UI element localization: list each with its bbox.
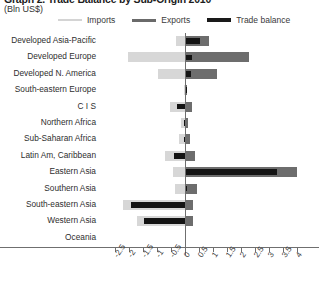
x-tick-label: -2 (126, 248, 137, 259)
zero-axis-line (185, 33, 186, 255)
line-swatch-icon (132, 19, 156, 22)
legend-item-exports: Exports (132, 15, 190, 25)
x-axis-line (0, 247, 319, 248)
row-bars (0, 131, 319, 147)
chart-row: Eastern Asia (0, 164, 319, 180)
row-bars (0, 115, 319, 131)
chart-row: Oceania (0, 230, 319, 246)
row-bars (0, 164, 319, 180)
chart-row: C I S (0, 99, 319, 115)
chart-row: South-eastern Europe (0, 82, 319, 98)
chart-legend: ImportsExportsTrade balance (58, 15, 290, 25)
bar-trade-balance (131, 202, 185, 208)
row-bars (0, 82, 319, 98)
row-bars (0, 49, 319, 65)
line-swatch-icon (58, 19, 82, 21)
x-tick-label: 0 (182, 250, 192, 259)
chart-row: Sub-Saharan Africa (0, 131, 319, 147)
chart-row: Southern Asia (0, 181, 319, 197)
legend-item-imports: Imports (58, 15, 115, 25)
bar-imports (158, 69, 185, 79)
bar-imports (175, 184, 185, 194)
bar-exports (185, 151, 195, 161)
chart-row: Developed Europe (0, 49, 319, 65)
bar-imports (128, 52, 185, 62)
chart-row: Western Asia (0, 213, 319, 229)
legend-label: Exports (161, 15, 190, 25)
row-bars (0, 148, 319, 164)
x-tick-label: 1 (210, 250, 220, 259)
chart-row: Developed N. America (0, 66, 319, 82)
bar-rows: Developed Asia-PacificDeveloped EuropeDe… (0, 33, 319, 246)
line-swatch-icon (207, 18, 231, 22)
row-bars (0, 66, 319, 82)
chart-row: Developed Asia-Pacific (0, 33, 319, 49)
bar-trade-balance (177, 104, 185, 110)
chart-units-subtitle: (Bln US$) (4, 4, 43, 14)
bar-trade-balance (185, 38, 200, 44)
chart-row: South-eastern Asia (0, 197, 319, 213)
legend-item-trade-balance: Trade balance (207, 15, 290, 25)
trade-balance-chart: Graph 2. Trade Balance by Sub-Origin 201… (0, 0, 319, 282)
row-bars (0, 197, 319, 213)
row-bars (0, 99, 319, 115)
x-tick-label: -1 (154, 248, 165, 259)
legend-label: Imports (87, 15, 115, 25)
chart-row: Northern Africa (0, 115, 319, 131)
legend-label: Trade balance (236, 15, 290, 25)
row-bars (0, 33, 319, 49)
x-tick-label: 4 (294, 250, 304, 259)
bar-exports (185, 52, 249, 62)
x-tick-label: 3 (266, 250, 276, 259)
plot-area: Developed Asia-PacificDeveloped EuropeDe… (0, 33, 319, 255)
bar-trade-balance (144, 218, 185, 224)
row-bars (0, 213, 319, 229)
row-bars (0, 230, 319, 246)
bar-trade-balance (185, 169, 277, 175)
bar-imports (173, 167, 185, 177)
bar-exports (185, 184, 197, 194)
row-bars (0, 181, 319, 197)
bar-trade-balance (174, 153, 185, 159)
bar-imports (176, 36, 185, 46)
x-tick-label: 2 (238, 250, 248, 259)
chart-row: Latin Am, Caribbean (0, 148, 319, 164)
